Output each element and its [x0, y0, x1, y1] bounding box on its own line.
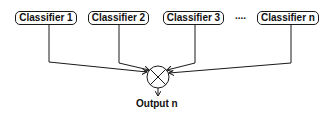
ellipsis: .... — [235, 10, 246, 21]
classifier-2-box: Classifier 2 — [88, 11, 149, 25]
connector-classifier-3 — [167, 25, 195, 70]
output-label: Output n — [136, 98, 178, 109]
classifier-n-box: Classifier n — [257, 11, 319, 25]
connector-classifier-2 — [119, 25, 149, 70]
circle-x-combiner-icon — [147, 66, 169, 88]
classifier-3-box: Classifier 3 — [163, 11, 224, 25]
connector-classifier-1 — [49, 25, 147, 72]
ensemble-diagram: Classifier 1 Classifier 2 Classifier 3 .… — [0, 0, 331, 124]
classifier-1-box: Classifier 1 — [15, 11, 77, 25]
connector-classifier-n — [169, 25, 291, 73]
